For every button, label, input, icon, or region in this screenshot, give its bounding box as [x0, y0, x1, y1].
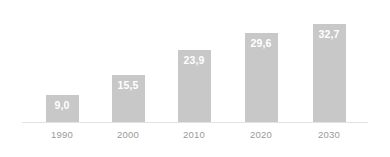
bar-group: 29,6 — [245, 33, 278, 122]
bar-group: 23,9 — [178, 50, 211, 122]
bar-group: 9,0 — [46, 95, 79, 122]
bar-group: 15,5 — [112, 75, 145, 122]
x-axis-tick-label: 1990 — [27, 130, 97, 140]
x-axis-line — [22, 122, 368, 123]
bar-chart: 9,0 15,5 23,9 29,6 32,7 1990 2000 2010 2… — [0, 0, 390, 157]
x-axis-tick-label: 2010 — [159, 130, 229, 140]
bar-value-label: 32,7 — [313, 29, 346, 40]
x-axis-tick-label: 2030 — [294, 130, 364, 140]
bar-value-label: 15,5 — [112, 80, 145, 91]
bar-value-label: 23,9 — [178, 55, 211, 66]
plot-area: 9,0 15,5 23,9 29,6 32,7 1990 2000 2010 2… — [0, 0, 390, 157]
x-axis-tick-label: 2000 — [93, 130, 163, 140]
bar-value-label: 29,6 — [245, 38, 278, 49]
bar-group: 32,7 — [313, 24, 346, 122]
bar-value-label: 9,0 — [46, 100, 79, 111]
x-axis-tick-label: 2020 — [226, 130, 296, 140]
